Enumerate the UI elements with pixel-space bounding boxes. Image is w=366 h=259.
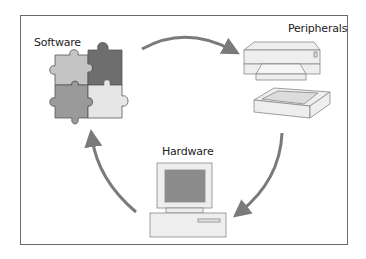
arrow-software-to-peripherals	[142, 37, 232, 50]
scanner-icon	[254, 88, 330, 118]
printer-icon	[244, 42, 320, 80]
software-label: Software	[34, 36, 81, 49]
desktop-computer-icon	[150, 163, 226, 237]
hardware-label: Hardware	[162, 145, 214, 158]
peripherals-label: Peripherals	[288, 22, 347, 35]
arrow-peripherals-to-hardware	[240, 133, 282, 212]
arrow-hardware-to-software	[92, 138, 136, 212]
puzzle-pieces-icon	[50, 43, 128, 125]
